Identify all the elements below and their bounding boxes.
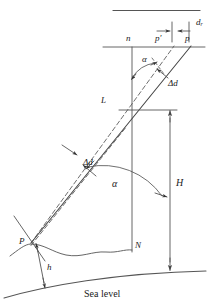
alpha-arc-top [132, 63, 155, 78]
label-L: L [101, 95, 106, 105]
label-delta-d-top: Δd [168, 78, 178, 88]
label-N: N [135, 240, 141, 250]
slant-range-dashed-ray-upper [31, 46, 174, 243]
figure-canvas: n p' p dr α Δd L H N α Δd P h Sea level [0, 0, 221, 307]
alpha-arc-mid-arrow-right [155, 193, 167, 197]
diagram-svg [0, 0, 221, 307]
alpha-arc-mid [88, 165, 162, 196]
label-dr-subscript: r [201, 21, 203, 27]
slant-range-solid-ray [31, 46, 191, 243]
label-p: p [185, 33, 190, 43]
h-height-arrow-bottom [43, 278, 45, 288]
label-n: n [126, 33, 131, 43]
label-delta-d-mid: Δd [83, 157, 93, 167]
delta-d-top-leader [157, 69, 168, 78]
label-H: H [176, 177, 183, 188]
delta-d-top-tick [152, 58, 164, 74]
label-h: h [47, 262, 52, 272]
label-P: P [19, 236, 25, 246]
terrain-profile [10, 244, 132, 256]
label-p-prime: p' [155, 33, 161, 43]
delta-d-mid-arrow-upper [62, 145, 77, 155]
label-dr: dr [196, 17, 203, 27]
label-alpha-mid: α [112, 178, 117, 189]
label-alpha-top: α [142, 54, 147, 64]
label-sea-level: Sea level [84, 288, 120, 299]
